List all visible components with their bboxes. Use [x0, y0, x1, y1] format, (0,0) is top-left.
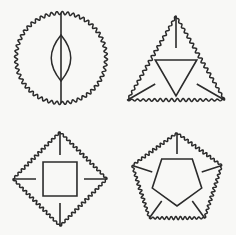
pentagon-inner-polygon	[152, 159, 201, 206]
figure-pentagon	[132, 133, 222, 220]
geometry-canvas	[0, 0, 236, 235]
figure-diamond	[13, 132, 107, 226]
figure-triangle	[128, 16, 225, 102]
figure-sheet	[0, 0, 236, 235]
diamond-spokes	[13, 132, 107, 226]
figure-circle-lens	[14, 11, 107, 104]
triangle-spokes	[128, 16, 225, 100]
diamond-inner-polygon	[43, 162, 77, 196]
triangle-inner-polygon	[155, 60, 197, 96]
